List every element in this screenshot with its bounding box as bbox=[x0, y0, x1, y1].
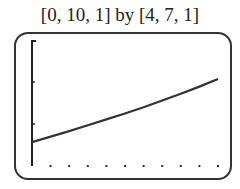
x-tick-dot bbox=[50, 165, 52, 167]
x-tick-dot bbox=[143, 165, 145, 167]
x-tick-dot bbox=[68, 165, 70, 167]
x-tick-dot bbox=[198, 165, 200, 167]
x-tick-dot bbox=[180, 165, 182, 167]
graph-plot bbox=[0, 0, 240, 189]
x-tick-dot bbox=[87, 165, 89, 167]
function-curve bbox=[32, 79, 218, 142]
x-tick-dot bbox=[217, 165, 219, 167]
x-tick-dot bbox=[105, 165, 107, 167]
x-tick-dot bbox=[124, 165, 126, 167]
x-tick-dot bbox=[161, 165, 163, 167]
